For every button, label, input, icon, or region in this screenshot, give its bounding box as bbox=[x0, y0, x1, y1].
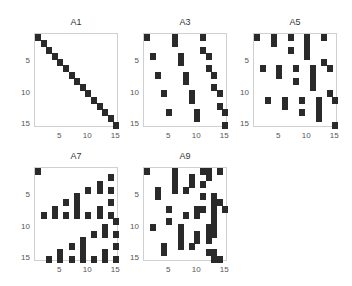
nonzero-marker bbox=[200, 206, 206, 213]
plot-area bbox=[34, 167, 118, 261]
x-tick-label: 15 bbox=[327, 131, 341, 140]
nonzero-marker bbox=[172, 187, 178, 194]
y-tick-label: 15 bbox=[14, 119, 30, 128]
nonzero-marker bbox=[35, 168, 41, 175]
nonzero-marker bbox=[217, 256, 223, 263]
nonzero-marker bbox=[97, 187, 103, 194]
nonzero-marker bbox=[108, 174, 114, 181]
plot-area bbox=[34, 33, 118, 127]
panel-title: A5 bbox=[253, 17, 337, 27]
nonzero-marker bbox=[113, 256, 119, 263]
nonzero-marker bbox=[155, 72, 161, 79]
x-tick-label: 5 bbox=[161, 265, 175, 274]
panel-title: A3 bbox=[143, 17, 227, 27]
nonzero-marker bbox=[183, 212, 189, 219]
y-tick-label: 5 bbox=[123, 190, 139, 199]
nonzero-marker bbox=[217, 168, 223, 175]
y-tick-label: 10 bbox=[14, 222, 30, 231]
nonzero-marker bbox=[254, 34, 260, 41]
nonzero-marker bbox=[189, 97, 195, 104]
nonzero-marker bbox=[102, 256, 108, 263]
nonzero-marker bbox=[155, 193, 161, 200]
nonzero-marker bbox=[74, 212, 80, 219]
nonzero-marker bbox=[222, 206, 228, 213]
x-tick-label: 15 bbox=[217, 265, 231, 274]
nonzero-marker bbox=[178, 243, 184, 250]
plot-area bbox=[143, 167, 227, 261]
y-tick-label: 5 bbox=[233, 56, 249, 65]
panel-title: A1 bbox=[34, 17, 118, 27]
nonzero-marker bbox=[97, 212, 103, 219]
nonzero-marker bbox=[183, 78, 189, 85]
nonzero-marker bbox=[150, 53, 156, 60]
y-tick-label: 10 bbox=[233, 88, 249, 97]
x-tick-label: 5 bbox=[271, 131, 285, 140]
nonzero-marker bbox=[282, 103, 288, 110]
y-tick-label: 5 bbox=[14, 56, 30, 65]
panel-title: A9 bbox=[143, 151, 227, 161]
nonzero-marker bbox=[172, 40, 178, 47]
nonzero-marker bbox=[189, 243, 195, 250]
nonzero-marker bbox=[113, 218, 119, 225]
x-tick-label: 15 bbox=[108, 265, 122, 274]
nonzero-marker bbox=[321, 34, 327, 41]
nonzero-marker bbox=[85, 187, 91, 194]
nonzero-marker bbox=[200, 181, 206, 188]
nonzero-marker bbox=[288, 34, 294, 41]
y-tick-label: 15 bbox=[233, 119, 249, 128]
x-tick-label: 10 bbox=[299, 131, 313, 140]
nonzero-marker bbox=[206, 174, 212, 181]
nonzero-marker bbox=[144, 168, 150, 175]
nonzero-marker bbox=[69, 243, 75, 250]
nonzero-marker bbox=[211, 72, 217, 79]
nonzero-marker bbox=[63, 212, 69, 219]
nonzero-marker bbox=[194, 237, 200, 244]
nonzero-marker bbox=[108, 199, 114, 206]
nonzero-marker bbox=[102, 231, 108, 238]
x-tick-label: 5 bbox=[52, 131, 66, 140]
nonzero-marker bbox=[166, 109, 172, 116]
nonzero-marker bbox=[327, 65, 333, 72]
nonzero-marker bbox=[194, 115, 200, 122]
nonzero-marker bbox=[288, 47, 294, 54]
nonzero-marker bbox=[69, 256, 75, 263]
nonzero-marker bbox=[276, 72, 282, 79]
x-tick-label: 10 bbox=[80, 131, 94, 140]
plot-area bbox=[253, 33, 337, 127]
y-tick-label: 10 bbox=[123, 88, 139, 97]
plot-area bbox=[143, 33, 227, 127]
nonzero-marker bbox=[222, 109, 228, 116]
y-tick-label: 15 bbox=[123, 119, 139, 128]
panel-title: A7 bbox=[34, 151, 118, 161]
nonzero-marker bbox=[189, 181, 195, 188]
nonzero-marker bbox=[293, 65, 299, 72]
nonzero-marker bbox=[108, 187, 114, 194]
y-tick-label: 5 bbox=[14, 190, 30, 199]
nonzero-marker bbox=[52, 212, 58, 219]
nonzero-marker bbox=[316, 115, 322, 122]
nonzero-marker bbox=[57, 256, 63, 263]
x-tick-label: 5 bbox=[161, 131, 175, 140]
y-tick-label: 15 bbox=[123, 253, 139, 262]
nonzero-marker bbox=[293, 78, 299, 85]
nonzero-marker bbox=[113, 231, 119, 238]
nonzero-marker bbox=[310, 84, 316, 91]
nonzero-marker bbox=[46, 256, 52, 263]
nonzero-marker bbox=[91, 256, 97, 263]
nonzero-marker bbox=[150, 224, 156, 231]
nonzero-marker bbox=[206, 53, 212, 60]
y-tick-label: 10 bbox=[123, 222, 139, 231]
nonzero-marker bbox=[265, 97, 271, 104]
nonzero-marker bbox=[63, 199, 69, 206]
nonzero-marker bbox=[211, 231, 217, 238]
nonzero-marker bbox=[41, 212, 47, 219]
nonzero-marker bbox=[113, 122, 119, 129]
nonzero-marker bbox=[260, 65, 266, 72]
nonzero-marker bbox=[200, 193, 206, 200]
nonzero-marker bbox=[332, 97, 338, 104]
nonzero-marker bbox=[206, 237, 212, 244]
y-tick-label: 15 bbox=[14, 253, 30, 262]
x-tick-label: 10 bbox=[189, 131, 203, 140]
nonzero-marker bbox=[178, 59, 184, 66]
nonzero-marker bbox=[217, 90, 223, 97]
